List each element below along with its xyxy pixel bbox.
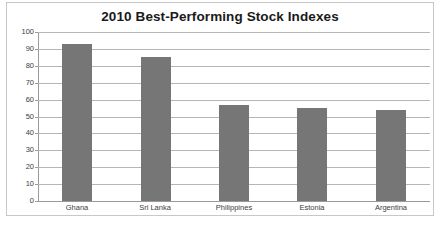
y-tick-label: 70 bbox=[10, 79, 34, 87]
y-tick-label: 40 bbox=[10, 129, 34, 137]
y-tick-label: 80 bbox=[10, 62, 34, 70]
y-tick-label: 60 bbox=[10, 96, 34, 104]
y-tick-mark bbox=[35, 117, 38, 118]
x-tick-label: Sri Lanka bbox=[116, 204, 194, 212]
y-tick-mark bbox=[35, 133, 38, 134]
gridline bbox=[38, 100, 430, 101]
bar bbox=[141, 57, 171, 201]
x-axis-line bbox=[38, 201, 430, 202]
y-tick-mark bbox=[35, 167, 38, 168]
y-tick-mark bbox=[35, 83, 38, 84]
y-tick-mark bbox=[35, 100, 38, 101]
bar bbox=[376, 110, 406, 201]
gridline bbox=[38, 66, 430, 67]
y-tick-label: 90 bbox=[10, 45, 34, 53]
bar bbox=[62, 44, 92, 201]
gridline bbox=[38, 49, 430, 50]
y-tick-mark bbox=[35, 49, 38, 50]
gridline bbox=[38, 32, 430, 33]
x-tick-label: Argentina bbox=[352, 204, 430, 212]
y-tick-mark bbox=[35, 184, 38, 185]
y-tick-label: 20 bbox=[10, 163, 34, 171]
y-tick-mark bbox=[35, 32, 38, 33]
chart-frame: 2010 Best-Performing Stock Indexes 10090… bbox=[6, 2, 434, 216]
x-tick-label: Philippines bbox=[195, 204, 273, 212]
bar bbox=[219, 105, 249, 201]
y-tick-label: 30 bbox=[10, 146, 34, 154]
x-tick-label: Ghana bbox=[38, 204, 116, 212]
x-axis-tick-labels: GhanaSri LankaPhilippinesEstoniaArgentin… bbox=[38, 204, 430, 220]
chart-title: 2010 Best-Performing Stock Indexes bbox=[7, 9, 433, 24]
bar bbox=[297, 108, 327, 201]
y-tick-label: 10 bbox=[10, 180, 34, 188]
y-tick-label: 0 bbox=[10, 197, 34, 205]
x-tick-label: Estonia bbox=[273, 204, 351, 212]
y-tick-mark bbox=[35, 150, 38, 151]
y-tick-label: 50 bbox=[10, 113, 34, 121]
y-axis-tick-labels: 1009080706050403020100 bbox=[7, 32, 34, 201]
y-tick-mark bbox=[35, 201, 38, 202]
plot-area bbox=[38, 32, 430, 201]
y-tick-mark bbox=[35, 66, 38, 67]
y-tick-label: 100 bbox=[10, 28, 34, 36]
gridline bbox=[38, 83, 430, 84]
